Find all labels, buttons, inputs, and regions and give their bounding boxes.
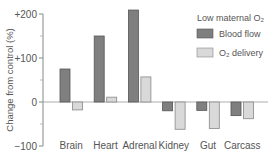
bar-adrenal-o2-delivery [141, 77, 151, 102]
bar-kidney-o2-delivery [175, 102, 185, 129]
legend-swatch-blood-flow [197, 29, 213, 38]
category-label: Brain [60, 140, 83, 151]
bar-brain-blood-flow [60, 69, 70, 102]
bar-adrenal-blood-flow [128, 10, 138, 102]
y-tick-label: +200 [14, 9, 37, 20]
legend-label-o2-delivery: O₂ delivery [219, 48, 264, 58]
legend-swatch-o2-delivery [197, 48, 213, 57]
bar-chart: Change from control (%) +200+1000−100 Br… [0, 0, 273, 159]
legend-title: Low maternal O₂ [197, 13, 265, 23]
bar-gut-o2-delivery [209, 102, 219, 128]
category-label: Gut [200, 140, 216, 151]
y-axis-ticks: +200+1000−100 [14, 9, 43, 152]
y-axis-label: Change from control (%) [4, 28, 15, 131]
bar-carcass-o2-delivery [244, 102, 254, 119]
bar-carcass-blood-flow [231, 102, 241, 116]
bar-heart-o2-delivery [107, 97, 117, 102]
legend-label-blood-flow: Blood flow [219, 29, 261, 39]
category-labels: BrainHeartAdrenalKidneyGutCarcass [60, 140, 261, 151]
category-label: Kidney [159, 140, 190, 151]
y-tick-label: 0 [31, 97, 37, 108]
bar-kidney-blood-flow [163, 102, 173, 111]
category-label: Adrenal [122, 140, 156, 151]
bar-heart-blood-flow [94, 36, 104, 102]
bar-brain-o2-delivery [73, 102, 83, 110]
category-label: Carcass [224, 140, 261, 151]
category-label: Heart [93, 140, 118, 151]
y-tick-label: +100 [14, 53, 37, 64]
y-tick-label: −100 [14, 141, 37, 152]
bar-gut-blood-flow [197, 102, 207, 110]
legend: Low maternal O₂ Blood flow O₂ delivery [197, 13, 265, 58]
